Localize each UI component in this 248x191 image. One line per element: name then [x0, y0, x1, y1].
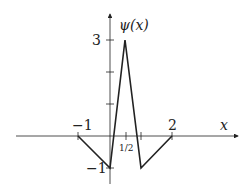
y-tick-label-neg1: −1	[86, 160, 107, 176]
x-axis-label: x	[220, 117, 228, 133]
x-tick-label-half: 1/2	[119, 143, 133, 153]
x-tick-label-neg1: −1	[72, 117, 93, 133]
x-tick-label-2: 2	[168, 117, 177, 133]
chart: ψ(x) 3 −1 −1 1/2 2 x	[0, 0, 248, 191]
y-tick-label-3: 3	[92, 32, 101, 48]
y-axis-label: ψ(x)	[119, 17, 149, 33]
